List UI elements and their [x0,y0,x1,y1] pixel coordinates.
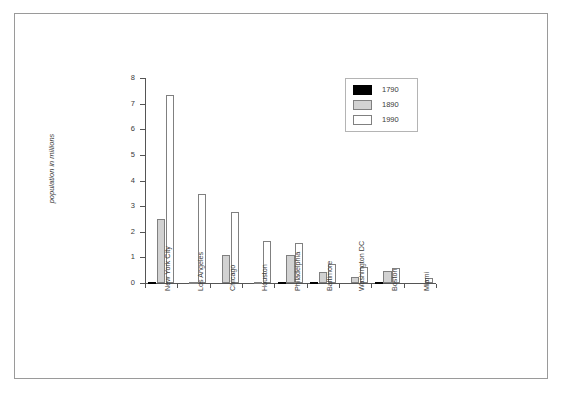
chart-plot-area: population in millions 012345678 New Yor… [15,14,549,380]
bar [148,282,156,284]
x-tick [436,284,437,288]
bar [375,282,383,284]
y-tick-label: 5 [119,151,135,159]
x-axis-label: New York City [164,246,171,291]
x-tick [339,284,340,288]
x-tick [177,284,178,288]
y-tick-label: 4 [119,177,135,185]
y-tick [140,129,145,130]
legend-label: 1890 [382,101,399,109]
x-tick [404,284,405,288]
bar [310,282,318,284]
y-tick-label: 7 [119,100,135,108]
legend-swatch-1790 [353,85,372,95]
y-axis-line [145,78,146,284]
y-tick-label: 3 [119,202,135,210]
x-tick [371,284,372,288]
legend-label: 1990 [382,116,399,124]
y-tick [140,78,145,79]
legend-swatch-1990 [353,115,372,125]
y-tick [140,104,145,105]
y-tick-label: 8 [119,74,135,82]
legend-label: 1790 [382,86,399,94]
x-axis-label: Miami [423,272,430,291]
y-tick-label: 1 [119,253,135,261]
x-axis-label: Philadelphia [294,252,301,291]
x-axis-label: Chicago [229,265,236,291]
figure-frame: population in millions 012345678 New Yor… [14,13,548,379]
y-tick [140,257,145,258]
bar [278,282,286,284]
y-tick-label: 6 [119,125,135,133]
y-tick-label: 2 [119,228,135,236]
y-tick-label: 0 [119,279,135,287]
x-axis-label: Los Angeles [197,252,204,291]
x-axis-label: Baltimore [326,261,333,291]
chart-legend: 179018901990 [345,78,418,132]
legend-swatch-1890 [353,100,372,110]
y-tick [140,206,145,207]
x-axis-label: Boston [391,269,398,291]
x-axis-label: Houston [261,264,268,291]
x-tick [274,284,275,288]
x-tick [307,284,308,288]
y-axis-title: population in millions [47,109,56,229]
x-tick [242,284,243,288]
y-tick [140,232,145,233]
y-tick [140,155,145,156]
x-axis-label: Washington DC [358,241,365,291]
x-tick [210,284,211,288]
y-tick [140,181,145,182]
x-tick [145,284,146,288]
